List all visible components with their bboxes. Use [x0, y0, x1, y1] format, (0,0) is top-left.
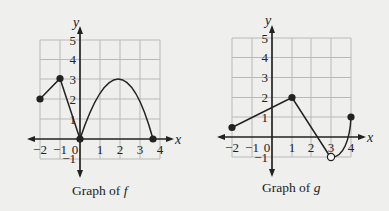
svg-text:−1: −1	[254, 150, 268, 165]
svg-text:5: 5	[70, 33, 77, 48]
svg-text:1: 1	[262, 110, 269, 125]
svg-text:3: 3	[137, 142, 144, 157]
svg-text:4: 4	[262, 50, 269, 65]
svg-text:−2: −2	[225, 140, 239, 155]
svg-text:3: 3	[70, 72, 77, 87]
svg-text:x: x	[366, 130, 374, 145]
filled-point	[149, 135, 156, 142]
graphs-canvas: −2 −1 0 1 2 3 4 5 4 3 2 1 −1 x y	[0, 0, 389, 211]
svg-text:−1: −1	[62, 151, 76, 166]
svg-text:5: 5	[262, 31, 269, 46]
graph-f: −2 −1 0 1 2 3 4 5 4 3 2 1 −1 x y	[29, 15, 182, 176]
filled-point	[36, 95, 43, 102]
caption-variable: f	[124, 183, 128, 198]
filled-point	[288, 94, 295, 101]
svg-text:4: 4	[70, 52, 77, 67]
svg-text:4: 4	[348, 140, 355, 155]
caption-prefix: Graph of	[72, 183, 120, 198]
svg-text:2: 2	[308, 140, 315, 155]
curve-f	[40, 79, 153, 140]
tick-labels-g: −2 −1 0 1 2 3 4 5 4 3 2 1 −1 x y	[225, 13, 374, 165]
graph-g: −2 −1 0 1 2 3 4 5 4 3 2 1 −1 x y	[219, 13, 374, 175]
svg-text:1: 1	[97, 142, 104, 157]
svg-text:3: 3	[328, 140, 335, 155]
caption-variable: g	[314, 180, 321, 195]
svg-text:1: 1	[289, 140, 296, 155]
caption-prefix: Graph of	[262, 180, 310, 195]
caption-graph-g: Graph of g	[262, 180, 320, 196]
svg-text:2: 2	[70, 92, 77, 107]
filled-point	[56, 75, 63, 82]
svg-text:y: y	[263, 13, 272, 28]
svg-text:−2: −2	[33, 142, 47, 157]
svg-text:1: 1	[70, 112, 77, 127]
svg-text:x: x	[174, 132, 182, 147]
caption-graph-f: Graph of f	[72, 183, 128, 199]
svg-text:4: 4	[157, 142, 164, 157]
svg-text:3: 3	[262, 70, 269, 85]
filled-point	[228, 124, 235, 131]
filled-point	[347, 113, 354, 120]
svg-text:2: 2	[262, 90, 269, 105]
svg-text:2: 2	[117, 142, 124, 157]
svg-text:y: y	[71, 15, 80, 30]
